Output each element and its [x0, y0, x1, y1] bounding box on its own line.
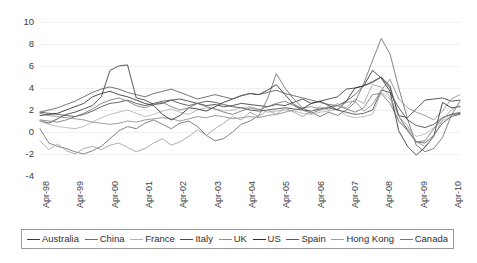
x-tick-label: Apr-09	[420, 181, 429, 208]
plot-area	[40, 22, 460, 176]
legend-item-italy[interactable]: Italy	[180, 234, 212, 244]
x-tick-label: Apr-02	[179, 181, 188, 208]
legend-swatch-icon	[331, 239, 344, 240]
legend-label: France	[145, 234, 175, 244]
x-tick-label: Apr-98	[42, 181, 51, 208]
y-tick-label: 4	[8, 83, 34, 93]
x-tick-label: Apr-04	[248, 181, 257, 208]
x-tick-label: Apr-99	[76, 181, 85, 208]
legend-label: Australia	[42, 234, 79, 244]
y-tick-label: 8	[8, 39, 34, 49]
legend-item-china[interactable]: China	[85, 234, 125, 244]
y-tick-label: -2	[8, 149, 34, 159]
x-tick-label: Apr-08	[385, 181, 394, 208]
legend-label: US	[268, 234, 281, 244]
legend-swatch-icon	[400, 239, 413, 240]
legend-swatch-icon	[219, 239, 232, 240]
x-tick-label: Apr-10	[454, 181, 463, 208]
x-tick-label: Apr-07	[351, 181, 360, 208]
y-tick-label: 0	[8, 127, 34, 137]
legend-item-hong-kong[interactable]: Hong Kong	[331, 234, 394, 244]
x-tick-label: Apr-05	[282, 181, 291, 208]
series-lines	[40, 22, 460, 176]
legend-label: China	[100, 234, 125, 244]
legend-item-spain[interactable]: Spain	[286, 234, 325, 244]
x-tick-label: Apr-06	[317, 181, 326, 208]
x-tick-label: Apr-01	[145, 181, 154, 208]
y-tick-label: 2	[8, 105, 34, 115]
legend-item-us[interactable]: US	[253, 234, 281, 244]
x-tick-label: Apr-03	[214, 181, 223, 208]
series-line-china	[40, 39, 460, 155]
legend-swatch-icon	[27, 239, 40, 240]
legend-swatch-icon	[253, 239, 266, 240]
legend-label: Spain	[301, 234, 325, 244]
series-line-canada	[40, 94, 460, 142]
legend-label: Hong Kong	[346, 234, 394, 244]
legend-swatch-icon	[85, 239, 98, 240]
y-tick-label: 10	[8, 17, 34, 27]
y-tick-label: -4	[8, 171, 34, 181]
legend-item-australia[interactable]: Australia	[27, 234, 79, 244]
legend-label: Canada	[415, 234, 448, 244]
series-line-france	[40, 92, 460, 136]
legend-swatch-icon	[180, 239, 193, 240]
chart-legend: AustraliaChinaFranceItalyUKUSSpainHong K…	[21, 229, 454, 249]
legend-swatch-icon	[130, 239, 143, 240]
y-tick-label: 6	[8, 61, 34, 71]
x-tick-label: Apr-00	[111, 181, 120, 208]
legend-item-uk[interactable]: UK	[219, 234, 247, 244]
chart-root: 1086420-2-4 Apr-98Apr-99Apr-00Apr-01Apr-…	[0, 0, 477, 263]
legend-item-canada[interactable]: Canada	[400, 234, 448, 244]
legend-label: UK	[234, 234, 247, 244]
legend-label: Italy	[195, 234, 212, 244]
legend-item-france[interactable]: France	[130, 234, 175, 244]
legend-swatch-icon	[286, 239, 299, 240]
